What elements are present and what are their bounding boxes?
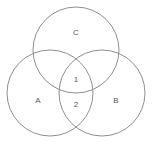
venn-diagram-canvas: C A B 1 2: [0, 0, 152, 144]
venn-diagram-svg: C A B 1 2: [0, 0, 152, 144]
region-label-2: 2: [74, 100, 79, 109]
set-label-c: C: [73, 28, 79, 37]
set-label-a: A: [35, 96, 41, 105]
set-label-b: B: [113, 96, 118, 105]
region-label-1: 1: [74, 75, 79, 84]
